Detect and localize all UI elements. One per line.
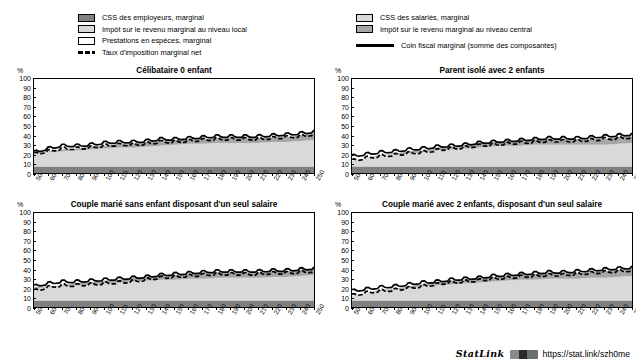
y-tick-label: 10 bbox=[23, 295, 31, 302]
y-tick-label: 20 bbox=[23, 151, 31, 158]
y-axis-labels-celibataire-0-enfant: 0102030405060708090100 bbox=[13, 78, 31, 174]
y-axis-tick bbox=[351, 260, 354, 261]
legend-item-taux-net: Taux d'imposition marginal net bbox=[78, 47, 308, 58]
y-tick-label: 40 bbox=[341, 266, 349, 273]
y-axis-tick bbox=[351, 270, 354, 271]
chart-legend: CSS des employeurs, marginal Impôt sur l… bbox=[60, 12, 600, 60]
statlink-url[interactable]: https://stat.link/szh0me bbox=[543, 349, 630, 359]
y-tick-label: 50 bbox=[341, 257, 349, 264]
y-axis-labels-parent-isole-2-enfants: 0102030405060708090100 bbox=[331, 78, 349, 174]
plot-area-celibataire-0-enfant bbox=[33, 78, 315, 174]
y-tick-label: 80 bbox=[23, 94, 31, 101]
y-axis-tick bbox=[351, 212, 354, 213]
legend-label-coin-fiscal: Coin fiscal marginal (somme des composan… bbox=[401, 41, 557, 50]
y-axis-tick bbox=[33, 270, 36, 271]
chart-panel-celibataire-0-enfant: Célibataire 0 enfant%0102030405060708090… bbox=[0, 66, 318, 196]
y-axis-tick bbox=[33, 222, 36, 223]
y-axis-tick bbox=[351, 289, 354, 290]
y-axis-tick bbox=[33, 116, 36, 117]
y-tick-label: 90 bbox=[23, 218, 31, 225]
legend-spacer bbox=[356, 35, 606, 39]
y-tick-label: 20 bbox=[341, 151, 349, 158]
x-axis-labels-couple-marie-sans-enfant: 5060708090100110120130140150160170180190… bbox=[33, 310, 315, 330]
y-axis-tick bbox=[351, 155, 354, 156]
legend-item-css-salaries: CSS des salariés, marginal bbox=[356, 12, 606, 23]
y-axis-tick bbox=[33, 260, 36, 261]
y-axis-labels-couple-marie-sans-enfant: 0102030405060708090100 bbox=[13, 212, 31, 308]
legend-swatch-css-employeurs bbox=[78, 14, 95, 22]
legend-dashed-line-icon bbox=[78, 48, 95, 56]
y-tick-label: 70 bbox=[23, 103, 31, 110]
y-tick-label: 10 bbox=[341, 161, 349, 168]
y-tick-label: 90 bbox=[341, 218, 349, 225]
y-axis-tick bbox=[33, 145, 36, 146]
statlink-footer: StatLinkhttps://stat.link/szh0me bbox=[0, 348, 636, 359]
plot-area-couple-marie-sans-enfant bbox=[33, 212, 315, 308]
y-tick-label: 60 bbox=[341, 113, 349, 120]
y-axis-tick bbox=[33, 155, 36, 156]
y-axis-tick bbox=[351, 78, 354, 79]
y-tick-label: 60 bbox=[23, 113, 31, 120]
y-axis-tick bbox=[351, 298, 354, 299]
y-tick-label: 90 bbox=[341, 84, 349, 91]
y-tick-label: 30 bbox=[341, 142, 349, 149]
chart-title-celibataire-0-enfant: Célibataire 0 enfant bbox=[33, 66, 315, 75]
legend-item-coin-fiscal: Coin fiscal marginal (somme des composan… bbox=[356, 40, 606, 51]
legend-column-right: CSS des salariés, marginal Impôt sur le … bbox=[356, 12, 606, 51]
y-axis-tick bbox=[351, 250, 354, 251]
y-tick-label: 20 bbox=[23, 285, 31, 292]
legend-item-impot-central: Impôt sur le revenu marginal au niveau c… bbox=[356, 24, 606, 35]
chart-title-couple-marie-2-enfants: Couple marié avec 2 enfants, disposant d… bbox=[351, 200, 633, 209]
plot-area-couple-marie-2-enfants bbox=[351, 212, 633, 308]
y-axis-tick bbox=[351, 231, 354, 232]
y-tick-label: 100 bbox=[19, 75, 31, 82]
y-axis-tick bbox=[351, 145, 354, 146]
y-tick-label: 0 bbox=[345, 171, 349, 178]
y-tick-label: 50 bbox=[341, 123, 349, 130]
y-tick-label: 50 bbox=[23, 257, 31, 264]
legend-label-taux-net: Taux d'imposition marginal net bbox=[102, 48, 201, 57]
y-tick-label: 40 bbox=[23, 266, 31, 273]
y-tick-label: 30 bbox=[23, 142, 31, 149]
y-tick-label: 70 bbox=[341, 103, 349, 110]
x-axis-labels-celibataire-0-enfant: 5060708090100110120130140150160170180190… bbox=[33, 176, 315, 196]
y-axis-tick bbox=[351, 116, 354, 117]
legend-label-impot-central: Impôt sur le revenu marginal au niveau c… bbox=[380, 25, 532, 34]
x-axis-labels-parent-isole-2-enfants: 5060708090100110120130140150160170180190… bbox=[351, 176, 633, 196]
plot-area-parent-isole-2-enfants bbox=[351, 78, 633, 174]
y-tick-label: 40 bbox=[341, 132, 349, 139]
legend-solid-line-icon bbox=[356, 41, 394, 49]
chart-title-parent-isole-2-enfants: Parent isolé avec 2 enfants bbox=[351, 66, 633, 75]
y-axis-tick bbox=[351, 222, 354, 223]
y-axis-unit-couple-marie-2-enfants: % bbox=[335, 201, 341, 208]
y-axis-tick bbox=[33, 88, 36, 89]
y-tick-label: 60 bbox=[341, 247, 349, 254]
y-axis-tick bbox=[33, 279, 36, 280]
legend-item-css-employeurs: CSS des employeurs, marginal bbox=[78, 12, 308, 23]
legend-swatch-impot-local bbox=[78, 25, 95, 33]
y-tick-label: 50 bbox=[23, 123, 31, 130]
y-axis-tick bbox=[351, 126, 354, 127]
y-axis-tick bbox=[33, 164, 36, 165]
x-axis-labels-couple-marie-2-enfants: 5060708090100110120130140150160170180190… bbox=[351, 310, 633, 330]
y-tick-label: 0 bbox=[27, 171, 31, 178]
legend-swatch-css-salaries bbox=[356, 14, 373, 22]
y-tick-label: 0 bbox=[345, 305, 349, 312]
y-axis-unit-parent-isole-2-enfants: % bbox=[335, 67, 341, 74]
barcode-icon bbox=[510, 350, 538, 359]
y-tick-label: 100 bbox=[19, 209, 31, 216]
y-axis-tick bbox=[33, 250, 36, 251]
y-tick-label: 30 bbox=[23, 276, 31, 283]
y-axis-tick bbox=[351, 107, 354, 108]
y-axis-tick bbox=[33, 241, 36, 242]
y-tick-label: 80 bbox=[23, 228, 31, 235]
y-axis-tick bbox=[351, 279, 354, 280]
y-axis-tick bbox=[33, 212, 36, 213]
y-axis-tick bbox=[351, 241, 354, 242]
y-tick-label: 80 bbox=[341, 94, 349, 101]
y-tick-label: 70 bbox=[341, 237, 349, 244]
y-axis-tick bbox=[351, 136, 354, 137]
y-axis-unit-celibataire-0-enfant: % bbox=[17, 67, 23, 74]
chart-panel-parent-isole-2-enfants: Parent isolé avec 2 enfants%010203040506… bbox=[318, 66, 636, 196]
legend-swatch-impot-central bbox=[356, 25, 373, 33]
